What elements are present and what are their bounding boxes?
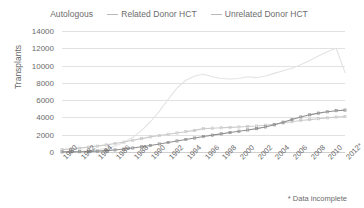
y-axis-tick-label: 2000 [36, 130, 54, 139]
y-axis-tick-label: 6000 [36, 96, 54, 105]
y-axis-tick-label: 4000 [36, 113, 54, 122]
series-layer [62, 31, 345, 152]
legend-label-related-donor-hct: Related Donor HCT [121, 9, 197, 19]
y-axis-tick-label: 8000 [36, 78, 54, 87]
legend-item-autologous[interactable]: Autologous [47, 9, 93, 19]
legend-line-swatch-unrelated-donor-hct [211, 14, 222, 15]
y-axis-tick-labels: 02000400060008000100001200014000 [0, 31, 58, 152]
legend-line-swatch-related-donor-hct [107, 14, 118, 15]
chart-footnote: * Data incomplete [288, 194, 347, 203]
x-axis-tick-labels: 1980198219841986198819901992199419961998… [62, 152, 345, 192]
y-axis-tick-label: 10000 [32, 61, 54, 70]
legend-item-unrelated-donor-hct[interactable]: Unrelated Donor HCT [211, 9, 308, 19]
y-axis-tick-label: 12000 [32, 44, 54, 53]
x-axis-tick-label: 2012* [344, 141, 364, 161]
legend-label-unrelated-donor-hct: Unrelated Donor HCT [225, 9, 308, 19]
legend-item-related-donor-hct[interactable]: Related Donor HCT [107, 9, 197, 19]
legend-label-autologous: Autologous [50, 9, 93, 19]
plot-area [62, 31, 345, 152]
y-axis-tick-label: 0 [50, 148, 54, 157]
chart-legend: Autologous Related Donor HCT Unrelated D… [0, 6, 355, 22]
y-axis-tick-label: 14000 [32, 27, 54, 36]
